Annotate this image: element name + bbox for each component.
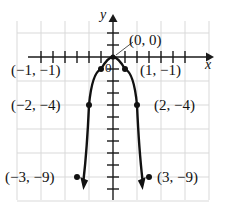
point-neg1-neg1	[98, 66, 104, 72]
annotation-point-0-0: (0, 0)	[129, 33, 162, 48]
origin-zero-label: 0	[105, 61, 112, 74]
annotation-point-neg2-neg4: (−2, −4)	[11, 98, 60, 113]
annotation-point-neg3-neg9: (−3, −9)	[5, 170, 54, 185]
point-0-0	[110, 54, 115, 59]
point-2-neg4	[134, 102, 140, 108]
y-axis-arrowhead	[109, 14, 118, 22]
y-axis	[107, 22, 119, 200]
annotation-point-2-neg4: (2, −4)	[154, 98, 195, 113]
curve-right-arrowhead	[138, 177, 146, 190]
point-neg3-neg9	[74, 174, 80, 180]
x-axis-label: x	[205, 58, 211, 72]
point-3-neg9	[146, 174, 152, 180]
annotation-point-1-neg1: (1, −1)	[140, 63, 181, 78]
curve-left-arrowhead	[80, 177, 88, 190]
y-axis-label: y	[100, 8, 106, 22]
annotation-point-3-neg9: (3, −9)	[157, 170, 198, 185]
annotation-point-neg1-neg1: (−1, −1)	[11, 63, 60, 78]
graph-figure: y x 0 (0, 0) (−1, −1) (1, −1) (−2, −4) (…	[0, 0, 226, 206]
point-1-neg1	[122, 66, 128, 72]
point-neg2-neg4	[86, 102, 92, 108]
